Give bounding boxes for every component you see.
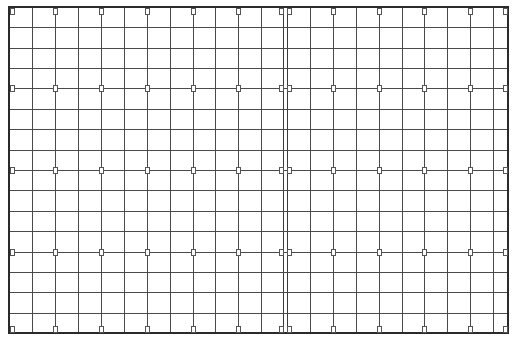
intersection-marker	[288, 327, 292, 333]
intersection-marker	[54, 9, 58, 15]
intersection-marker	[288, 250, 292, 256]
intersection-marker	[237, 9, 241, 15]
intersection-marker	[504, 168, 508, 174]
intersection-marker	[192, 250, 196, 256]
intersection-marker	[469, 86, 473, 92]
intersection-marker	[146, 250, 150, 256]
intersection-marker	[378, 9, 382, 15]
intersection-marker	[504, 250, 508, 256]
intersection-marker	[280, 168, 284, 174]
intersection-marker	[378, 86, 382, 92]
intersection-marker	[423, 327, 427, 333]
intersection-marker	[423, 86, 427, 92]
intersection-marker	[192, 9, 196, 15]
intersection-marker	[146, 86, 150, 92]
intersection-marker	[237, 250, 241, 256]
intersection-marker	[332, 86, 336, 92]
intersection-marker	[192, 168, 196, 174]
intersection-marker	[469, 9, 473, 15]
intersection-marker	[11, 168, 15, 174]
intersection-marker	[280, 250, 284, 256]
intersection-marker	[378, 168, 382, 174]
intersection-marker	[288, 9, 292, 15]
intersection-marker	[237, 327, 241, 333]
intersection-marker	[54, 168, 58, 174]
intersection-marker	[332, 168, 336, 174]
intersection-marker	[280, 327, 284, 333]
intersection-marker	[504, 9, 508, 15]
intersection-marker	[504, 327, 508, 333]
intersection-marker	[54, 327, 58, 333]
intersection-marker	[423, 168, 427, 174]
intersection-marker	[423, 9, 427, 15]
intersection-marker	[146, 168, 150, 174]
intersection-marker	[146, 327, 150, 333]
intersection-marker	[237, 168, 241, 174]
grid-diagram	[0, 0, 517, 342]
intersection-marker	[11, 9, 15, 15]
intersection-marker	[332, 250, 336, 256]
intersection-marker	[378, 327, 382, 333]
intersection-marker	[100, 86, 104, 92]
intersection-marker	[237, 86, 241, 92]
intersection-marker	[100, 250, 104, 256]
intersection-marker	[280, 9, 284, 15]
intersection-marker	[288, 168, 292, 174]
intersection-marker	[100, 327, 104, 333]
intersection-marker	[54, 86, 58, 92]
intersection-marker	[469, 327, 473, 333]
intersection-marker	[11, 250, 15, 256]
intersection-marker	[280, 86, 284, 92]
intersection-marker	[11, 86, 15, 92]
intersection-marker	[54, 250, 58, 256]
intersection-marker	[332, 327, 336, 333]
intersection-marker	[469, 250, 473, 256]
intersection-marker	[504, 86, 508, 92]
intersection-marker	[332, 9, 336, 15]
intersection-marker	[469, 168, 473, 174]
intersection-marker	[100, 168, 104, 174]
intersection-marker	[100, 9, 104, 15]
intersection-marker	[288, 86, 292, 92]
intersection-marker	[192, 86, 196, 92]
horizontal-grid-lines	[9, 28, 508, 314]
intersection-marker	[378, 250, 382, 256]
intersection-marker	[146, 9, 150, 15]
grid-svg	[0, 0, 517, 342]
intersection-marker	[423, 250, 427, 256]
intersection-marker	[11, 327, 15, 333]
intersection-marker	[192, 327, 196, 333]
